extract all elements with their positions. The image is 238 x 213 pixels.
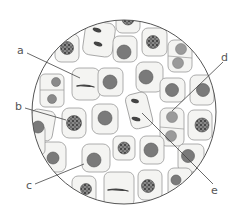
label-a: a <box>17 44 24 57</box>
microscope-field <box>25 5 214 206</box>
label-b: b <box>15 100 22 113</box>
label-d: d <box>221 51 228 64</box>
cell-division-diagram <box>0 0 238 213</box>
label-e: e <box>211 184 218 197</box>
label-c: c <box>26 179 32 192</box>
